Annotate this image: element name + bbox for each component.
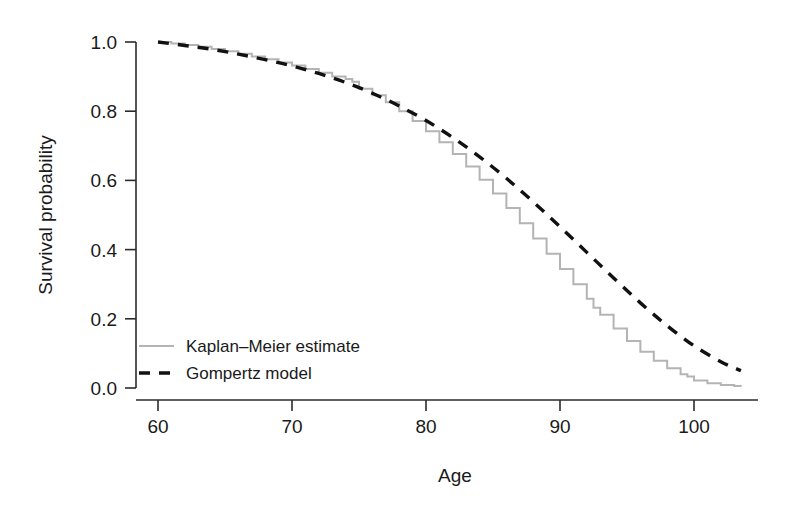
x-tick-label-100: 100 bbox=[678, 416, 710, 437]
survival-probability-chart: 0.00.20.40.60.81.0 60708090100 Kaplan–Me… bbox=[0, 0, 791, 517]
y-tick-label-0.6: 0.6 bbox=[91, 170, 117, 191]
legend-label-gompertz: Gompertz model bbox=[186, 364, 312, 383]
x-tick-label-80: 80 bbox=[415, 416, 436, 437]
x-axis-title: Age bbox=[438, 465, 472, 486]
x-tick-label-60: 60 bbox=[147, 416, 168, 437]
chart-background bbox=[0, 0, 791, 517]
y-tick-label-0.4: 0.4 bbox=[91, 240, 118, 261]
legend-label-kaplan-meier: Kaplan–Meier estimate bbox=[186, 337, 360, 356]
y-tick-label-0.0: 0.0 bbox=[91, 378, 117, 399]
x-tick-label-90: 90 bbox=[549, 416, 570, 437]
y-tick-label-1.0: 1.0 bbox=[91, 32, 117, 53]
y-tick-label-0.2: 0.2 bbox=[91, 309, 117, 330]
y-axis-title: Survival probability bbox=[35, 135, 56, 295]
x-tick-label-70: 70 bbox=[281, 416, 302, 437]
survival-plot-figure: 0.00.20.40.60.81.0 60708090100 Kaplan–Me… bbox=[0, 0, 791, 517]
y-tick-label-0.8: 0.8 bbox=[91, 101, 117, 122]
